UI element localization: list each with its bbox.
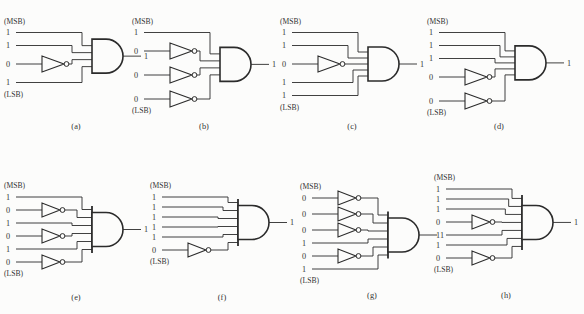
input-value: 1 [6, 219, 10, 228]
input-value: 1 [6, 41, 10, 50]
lsb-label: (LSB) [150, 257, 169, 266]
input-value: 1 [436, 231, 440, 240]
circuit-h-diagram: (MSB)1110110(LSB)1(h) [432, 150, 584, 306]
inverter-bubble-icon [64, 62, 69, 67]
output-value: 1 [567, 59, 571, 68]
and-gate-icon [238, 206, 269, 240]
not-gate-icon [465, 69, 487, 85]
not-gate-icon [338, 207, 356, 221]
input-value: 1 [429, 28, 433, 37]
input-value: 1 [6, 28, 10, 37]
not-gate-icon [170, 43, 192, 59]
and-gate-icon [368, 47, 399, 81]
inverter-bubble-icon [192, 49, 197, 54]
input-value: 0 [6, 206, 10, 215]
input-value: 1 [152, 193, 156, 202]
lsb-label: (LSB) [434, 265, 453, 274]
inverter-bubble-icon [192, 97, 197, 102]
input-value: 1 [302, 239, 306, 248]
input-value: 1 [282, 91, 286, 100]
input-value: 1 [302, 265, 306, 274]
inverter-bubble-icon [490, 256, 495, 261]
msb-label: (MSB) [280, 17, 302, 26]
circuit-e: (MSB)101010(LSB)1(e) [2, 152, 154, 308]
input-value: 0 [6, 258, 10, 267]
not-gate-icon [338, 249, 356, 263]
input-value: 0 [436, 218, 440, 227]
input-value: 1 [152, 223, 156, 232]
msb-label: (MSB) [150, 181, 172, 190]
not-gate-icon [42, 203, 60, 217]
input-value: 0 [436, 254, 440, 263]
circuit-label: (e) [71, 293, 81, 302]
circuit-c: (MSB)11011(LSB)1(c) [278, 0, 430, 156]
inverter-bubble-icon [356, 196, 361, 201]
msb-label: (MSB) [4, 17, 26, 26]
circuit-e-diagram: (MSB)101010(LSB)1(e) [2, 152, 154, 308]
circuit-d-diagram: (MSB)11100(LSB)1(d) [425, 0, 577, 156]
input-value: 0 [282, 60, 286, 69]
input-value: 1 [134, 28, 138, 37]
figure-canvas: (MSB)1101(LSB)1(a)(MSB)1000(LSB)1(b)(MSB… [0, 0, 584, 314]
input-value: 1 [6, 78, 10, 87]
inverter-bubble-icon [206, 248, 211, 253]
and-gate-icon [388, 218, 419, 252]
circuit-label: (a) [71, 122, 81, 131]
output-value: 1 [272, 60, 276, 69]
input-value: 1 [152, 233, 156, 242]
input-value: 1 [436, 241, 440, 250]
input-value: 1 [429, 54, 433, 63]
input-value: 1 [436, 205, 440, 214]
input-value: 1 [152, 203, 156, 212]
not-gate-icon [472, 251, 490, 265]
input-value: 0 [134, 47, 138, 56]
msb-label: (MSB) [4, 181, 26, 190]
msb-label: (MSB) [132, 17, 154, 26]
input-value: 1 [6, 245, 10, 254]
and-gate-icon [92, 213, 123, 247]
input-value: 1 [152, 213, 156, 222]
inverter-bubble-icon [487, 99, 492, 104]
input-value: 1 [282, 28, 286, 37]
inverter-bubble-icon [356, 228, 361, 233]
input-value: 0 [6, 232, 10, 241]
inverter-bubble-icon [192, 73, 197, 78]
msb-label: (MSB) [427, 17, 449, 26]
circuit-b-diagram: (MSB)1000(LSB)1(b) [130, 0, 282, 156]
input-value: 1 [436, 195, 440, 204]
lsb-label: (LSB) [427, 108, 446, 117]
inverter-bubble-icon [490, 220, 495, 225]
not-gate-icon [318, 56, 340, 72]
input-value: 0 [152, 246, 156, 255]
not-gate-icon [472, 215, 490, 229]
input-value: 1 [282, 41, 286, 50]
input-value: 1 [436, 185, 440, 194]
input-value: 1 [6, 193, 10, 202]
input-value: 0 [302, 194, 306, 203]
lsb-label: (LSB) [280, 103, 299, 112]
input-value: 0 [429, 73, 433, 82]
circuit-label: (h) [501, 291, 511, 300]
not-gate-icon [170, 91, 192, 107]
inverter-bubble-icon [340, 62, 345, 67]
not-gate-icon [42, 255, 60, 269]
circuit-h: (MSB)1110110(LSB)1(h) [432, 150, 584, 306]
output-value: 1 [290, 218, 294, 227]
circuit-g: (MSB)000101(LSB)1(g) [298, 150, 450, 306]
input-value: 1 [282, 78, 286, 87]
msb-label: (MSB) [434, 173, 456, 182]
and-gate-icon [92, 39, 123, 73]
input-value: 0 [134, 71, 138, 80]
input-value: 0 [429, 97, 433, 106]
not-gate-icon [338, 223, 356, 237]
circuit-label: (g) [367, 291, 377, 300]
output-value: 1 [420, 60, 424, 69]
input-value: 0 [302, 210, 306, 219]
circuit-g-diagram: (MSB)000101(LSB)1(g) [298, 150, 450, 306]
circuit-label: (f) [218, 293, 227, 302]
not-gate-icon [42, 229, 60, 243]
circuit-label: (b) [199, 122, 209, 131]
inverter-bubble-icon [60, 260, 65, 265]
and-gate-icon [515, 46, 546, 80]
not-gate-icon [188, 243, 206, 257]
